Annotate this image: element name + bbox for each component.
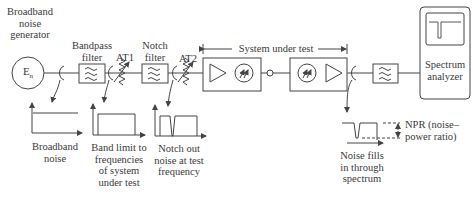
band-limited-spectrum-plot	[93, 104, 145, 135]
npr-label: NPR (noise– power ratio)	[405, 119, 459, 142]
connector-icon	[267, 70, 273, 76]
bandpass-filter-label: Bandpass filter	[70, 40, 114, 63]
notch-filter-label: Notch filter	[136, 40, 174, 63]
label-line: Bandpass	[70, 40, 114, 52]
symbol-main: E	[23, 65, 30, 77]
label-line: Broadband	[3, 6, 57, 18]
broadband-spectrum-plot	[32, 103, 82, 133]
label-line: Spectrum	[420, 59, 470, 71]
spectrum-analyzer-symbol	[420, 7, 470, 99]
label-line: analyzer	[420, 71, 470, 83]
caption-line: in through	[337, 162, 387, 174]
npr-diagram-canvas	[0, 0, 473, 202]
caption-line: under test	[90, 177, 148, 189]
caption-line: Broadband	[30, 141, 80, 153]
bandpass-filter-symbol	[79, 64, 105, 83]
caption-line: noise at test	[152, 155, 206, 167]
label-line: Notch	[136, 40, 174, 52]
attenuator-1-label: AT1	[115, 52, 135, 64]
label-line: generator	[3, 29, 57, 41]
notch-filter-symbol	[142, 64, 168, 83]
band-limit-caption: Band limit to frequencies of system unde…	[90, 142, 148, 188]
sut-block-2	[290, 58, 347, 91]
sut-block-1	[203, 58, 261, 91]
caption-line: noise	[30, 153, 80, 165]
notch-out-caption: Notch out noise at test frequency	[152, 143, 206, 178]
notched-spectrum-plot	[155, 105, 206, 136]
caption-line: spectrum	[337, 173, 387, 185]
label-line: filter	[136, 52, 174, 64]
probe-1-icon	[52, 66, 64, 102]
label-line: noise	[3, 18, 57, 30]
caption-line: Band limit to	[90, 142, 148, 154]
noise-fills-caption: Noise fills in through spectrum	[337, 150, 387, 185]
broadband-noise-caption: Broadband noise	[30, 141, 80, 164]
label-line: filter	[70, 52, 114, 64]
output-filter-symbol	[373, 64, 398, 83]
symbol-sub: n	[30, 72, 34, 80]
label-line: NPR (noise–	[405, 119, 459, 131]
caption-line: Notch out	[152, 143, 206, 155]
caption-line: frequencies	[90, 154, 148, 166]
caption-line: of system	[90, 165, 148, 177]
caption-line: Noise fills	[337, 150, 387, 162]
label-line: power ratio)	[405, 131, 459, 143]
spectrum-analyzer-label: Spectrum analyzer	[420, 59, 470, 82]
output-spectrum-plot	[342, 123, 400, 143]
attenuator-2-label: AT2	[178, 53, 198, 65]
probe-3-icon	[168, 66, 177, 106]
noise-generator-symbol-text: En	[18, 66, 38, 83]
system-under-test-label: System under test	[234, 43, 318, 55]
caption-line: frequency	[152, 166, 206, 178]
noise-generator-label: Broadband noise generator	[3, 6, 57, 41]
